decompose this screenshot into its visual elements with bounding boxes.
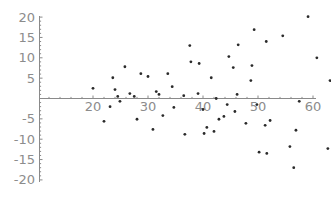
data-point bbox=[265, 152, 268, 155]
data-point bbox=[215, 97, 218, 100]
data-point bbox=[133, 95, 136, 98]
data-point bbox=[289, 145, 292, 148]
data-point bbox=[237, 43, 240, 46]
scatter-plot: -20-15-10-55101520 2030405060 bbox=[0, 0, 331, 197]
data-point bbox=[210, 76, 213, 79]
data-point bbox=[202, 108, 205, 111]
data-point bbox=[315, 56, 318, 59]
data-point bbox=[203, 132, 206, 135]
data-point bbox=[251, 64, 254, 67]
data-point bbox=[292, 166, 295, 169]
data-point bbox=[197, 92, 200, 95]
data-point bbox=[136, 118, 139, 121]
data-point bbox=[232, 66, 235, 69]
data-point bbox=[152, 128, 155, 131]
x-tick-label: 30 bbox=[140, 99, 157, 114]
data-point bbox=[147, 75, 150, 78]
data-point bbox=[205, 126, 208, 129]
data-point bbox=[326, 147, 329, 150]
data-point bbox=[190, 60, 193, 63]
data-point bbox=[139, 72, 142, 75]
data-point bbox=[111, 76, 114, 79]
data-point bbox=[158, 93, 161, 96]
data-point bbox=[226, 103, 229, 106]
data-point bbox=[166, 72, 169, 75]
data-point bbox=[256, 103, 259, 106]
data-point bbox=[128, 92, 131, 95]
y-tick-label: -5 bbox=[22, 111, 35, 126]
y-tick-label: -20 bbox=[14, 172, 35, 187]
data-point bbox=[236, 93, 239, 96]
data-point bbox=[295, 129, 298, 132]
x-tick-label: 60 bbox=[305, 99, 322, 114]
data-point bbox=[223, 115, 226, 118]
data-point bbox=[103, 120, 106, 123]
data-point bbox=[171, 85, 174, 88]
data-point bbox=[298, 100, 301, 103]
data-point bbox=[307, 15, 310, 18]
data-point bbox=[245, 122, 248, 125]
data-point bbox=[92, 87, 95, 90]
data-point bbox=[161, 114, 164, 117]
x-tick-label: 20 bbox=[85, 99, 102, 114]
data-point bbox=[258, 151, 261, 154]
data-point bbox=[155, 90, 158, 93]
y-tick-label: 20 bbox=[18, 10, 35, 25]
data-point bbox=[198, 62, 201, 65]
y-tick-label: -15 bbox=[14, 152, 35, 167]
data-point bbox=[264, 124, 267, 127]
data-point bbox=[109, 105, 112, 108]
data-point bbox=[234, 110, 237, 113]
axes: -20-15-10-55101520 2030405060 bbox=[14, 10, 322, 188]
data-point bbox=[114, 88, 117, 91]
y-tick-label: -10 bbox=[14, 132, 35, 147]
x-tick-label: 40 bbox=[195, 99, 212, 114]
data-point bbox=[124, 65, 127, 68]
y-ticks: -20-15-10-55101520 bbox=[14, 10, 43, 188]
x-tick-label: 50 bbox=[250, 99, 267, 114]
data-point bbox=[218, 118, 221, 121]
data-point bbox=[182, 94, 185, 97]
data-point bbox=[253, 28, 256, 31]
data-point bbox=[172, 106, 175, 109]
data-point bbox=[213, 130, 216, 133]
data-point bbox=[265, 40, 268, 43]
data-point bbox=[281, 34, 284, 37]
data-point bbox=[116, 95, 119, 98]
y-tick-label: 5 bbox=[27, 71, 35, 86]
data-point bbox=[183, 133, 186, 136]
data-point bbox=[227, 55, 230, 58]
y-tick-label: 10 bbox=[18, 50, 35, 65]
data-point bbox=[119, 100, 122, 103]
y-tick-label: 15 bbox=[18, 30, 35, 45]
data-point bbox=[269, 119, 272, 122]
data-point bbox=[188, 44, 191, 47]
data-point bbox=[249, 79, 252, 82]
data-points bbox=[92, 15, 331, 169]
